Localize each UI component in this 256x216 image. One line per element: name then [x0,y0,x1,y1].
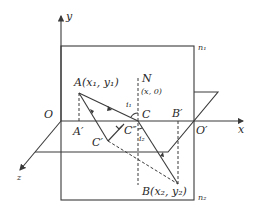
point-B-label: B(x₂, y₂) [141,185,187,198]
origin-label: O [44,108,53,121]
angle-i1-label: i₁ [126,100,132,109]
angle-i2-label: i₂ [139,134,145,143]
point-C-prime-label: C′ [92,136,103,149]
point-C-label: C [142,108,151,121]
medium-n2-label: n₂ [198,193,206,202]
refraction-diagram: y x z O O′ A(x₁, y₁) A′ N (x, 0) i₁ C C″… [0,0,256,216]
medium-n1-label: n₁ [198,43,206,52]
y-axis-label: y [65,10,73,23]
x-axis-label: x [238,123,245,136]
ray-Cprime-B [108,141,178,184]
origin-prime-label: O′ [196,124,208,137]
point-A-label: A(x₁, y₁) [73,76,119,89]
point-B-prime-label: B′ [171,107,183,120]
angle-arc-i1 [131,113,138,117]
point-A-prime-label: A′ [72,125,84,138]
point-N-label: N [141,72,152,85]
right-angle-mark [116,126,122,129]
z-axis-label: z [16,173,22,182]
z-axis [20,121,61,170]
point-N-coord-label: (x, 0) [141,87,162,96]
point-C-double-prime-label: C″ [124,124,137,137]
angle-arc-i2 [138,128,142,129]
